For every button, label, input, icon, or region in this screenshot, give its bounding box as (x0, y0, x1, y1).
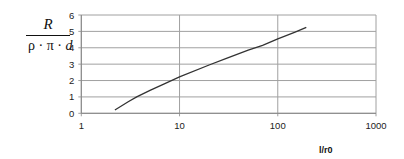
y-tick-label: 2 (69, 75, 74, 86)
y-tick-labels: 0123456 (69, 10, 74, 119)
x-tick-label: 100 (270, 120, 286, 131)
x-tick-label: 1000 (365, 120, 386, 131)
y-tick-label: 3 (69, 59, 74, 70)
y-tick-label: 1 (69, 91, 74, 102)
x-tick-label: 1 (79, 120, 84, 131)
y-tick-label: 0 (69, 108, 74, 119)
y-tick-label: 5 (69, 26, 74, 37)
line-chart: 0123456 1101001000 (0, 0, 404, 159)
x-tick-label: 10 (174, 120, 185, 131)
x-axis-label: l/r0 (319, 145, 333, 155)
x-tick-labels: 1101001000 (79, 120, 387, 131)
y-tick-label: 6 (69, 10, 74, 21)
gridlines (78, 15, 376, 116)
y-tick-label: 4 (69, 42, 74, 53)
